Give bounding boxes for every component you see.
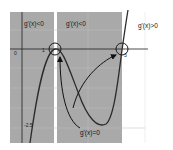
tick-label-x-one: 1 (42, 47, 45, 53)
region-label-middle: g'(x)<0 (66, 20, 86, 28)
tick-label-origin: 0 (14, 50, 17, 56)
annotation-label: g'(x)=0 (80, 129, 100, 137)
shaded-region-middle (57, 12, 122, 143)
region-label-right: g'(x)>0 (138, 22, 158, 30)
region-label-left: g'(x)<0 (24, 20, 44, 28)
function-graph-diagram: 0 1 3 -2.5 g'(x)<0 g'(x)<0 g'(x)>0 g'(x)… (0, 0, 173, 150)
tick-label-y-neg: -2.5 (24, 122, 33, 128)
